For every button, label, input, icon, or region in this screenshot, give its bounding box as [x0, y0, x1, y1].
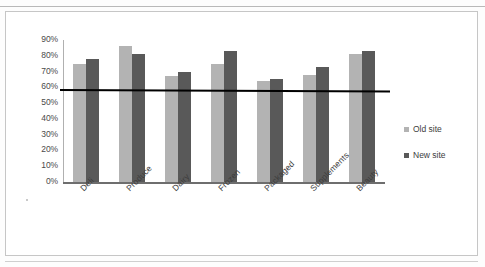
top-divider	[0, 6, 485, 7]
bottom-divider	[5, 261, 478, 262]
chart-frame	[5, 11, 478, 256]
cut-off-header-text	[176, 0, 236, 6]
chart-page: 90%80%70%60%50%40%30%20%10%0% DeliProduc…	[0, 0, 485, 267]
